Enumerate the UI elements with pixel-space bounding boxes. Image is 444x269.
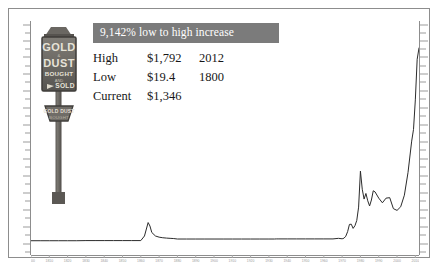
stats-cell-value: $1,346 — [147, 88, 199, 107]
x-tick-label: 2000 — [393, 259, 401, 263]
y-axis-right — [419, 21, 429, 255]
x-tick-label: 1860 — [137, 259, 145, 263]
x-tick-label: 1910 — [229, 259, 237, 263]
x-tick-label: 1850 — [119, 259, 127, 263]
x-tick-label: 1840 — [100, 259, 108, 263]
stats-cell-label: High — [93, 50, 147, 69]
sign-post-base — [52, 192, 65, 204]
x-tick-label: 1980 — [357, 259, 365, 263]
sign-text-gold: GOLD — [42, 41, 75, 53]
stats-table: High$1,7922012Low$19.41800Current$1,346 — [93, 50, 239, 107]
x-tick-label: 1900 — [210, 259, 218, 263]
x-tick-label: 1880 — [174, 259, 182, 263]
sign-text-sold: SOLD — [55, 82, 75, 89]
sign-text-dust: DUST — [43, 57, 75, 69]
x-tick-label: 1990 — [375, 259, 383, 263]
stats-cell-value: $19.4 — [147, 69, 199, 88]
stats-row: Current$1,346 — [93, 88, 239, 107]
x-tick-label: 1930 — [265, 259, 273, 263]
stats-row: Low$19.41800 — [93, 69, 239, 88]
stats-cell-year: 1800 — [199, 69, 239, 88]
x-tick-label: 1870 — [155, 259, 163, 263]
x-tick-label: 1800 — [31, 259, 35, 263]
gold-dust-sign-illustration: GOLD & DUST BOUGHT AND SOLD GOLD DUST BO… — [35, 20, 83, 212]
stats-cell-label: Low — [93, 69, 147, 88]
x-tick-label: 1920 — [247, 259, 255, 263]
sign-post — [56, 76, 62, 198]
stats-cell-year: 2012 — [199, 50, 239, 69]
x-tick-label: 1830 — [82, 259, 90, 263]
stats-cell-value: $1,792 — [147, 50, 199, 69]
increase-banner: 9,142% low to high increase — [93, 23, 279, 43]
x-tick-label: 1970 — [338, 259, 346, 263]
chart-frame: 1800181018201830184018501860187018801890… — [8, 8, 430, 258]
y-axis-left — [22, 21, 31, 255]
sign-text-bought: BOUGHT — [45, 70, 74, 77]
x-tick-label: 1940 — [283, 259, 291, 263]
x-tick-label: 1950 — [302, 259, 310, 263]
sign-lower-text-gold-dust: GOLD DUST — [43, 108, 74, 114]
x-tick-label: 1810 — [46, 259, 54, 263]
sign-lower-text-bought: BOUGHT — [49, 115, 69, 120]
x-tick-label: 1820 — [64, 259, 72, 263]
x-tick-label: 2010 — [412, 259, 419, 263]
stats-cell-label: Current — [93, 88, 147, 107]
stats-cell-year — [199, 88, 239, 107]
x-axis: 1800181018201830184018501860187018801890… — [31, 255, 419, 263]
x-tick-label: 1960 — [320, 259, 328, 263]
x-tick-label: 1890 — [192, 259, 200, 263]
stats-row: High$1,7922012 — [93, 50, 239, 69]
summary-panel: 9,142% low to high increase High$1,79220… — [93, 23, 279, 107]
